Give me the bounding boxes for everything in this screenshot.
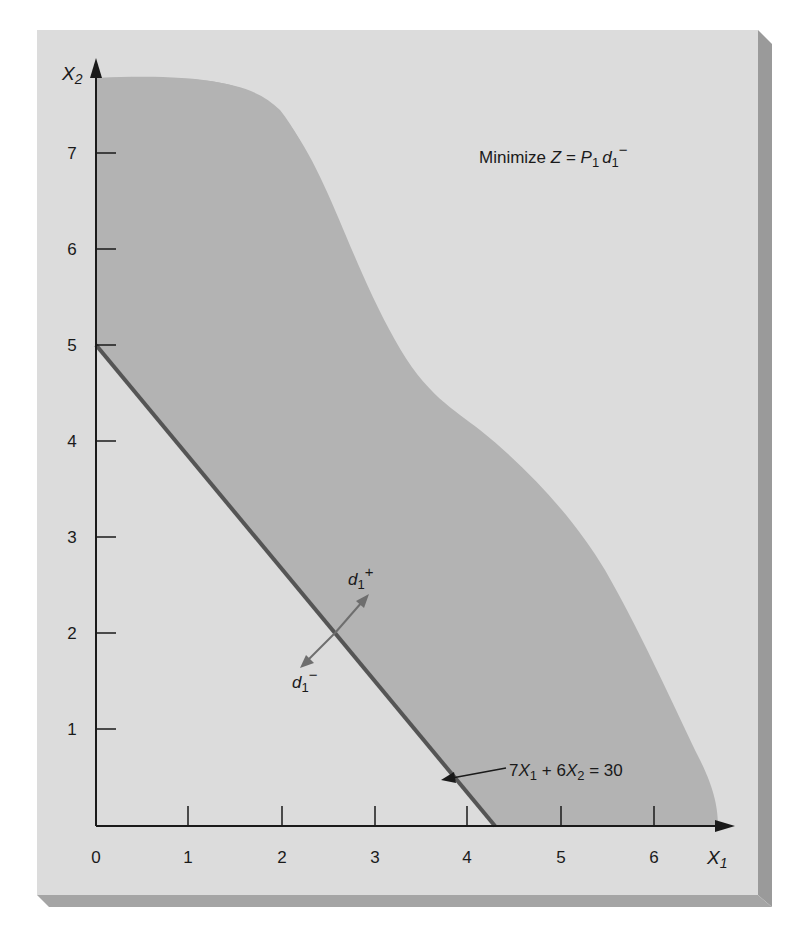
panel-shadow-right <box>758 30 772 907</box>
x-tick-label-6: 6 <box>649 848 658 867</box>
panel-shadow-bottom <box>37 895 772 907</box>
x-tick-label-3: 3 <box>370 848 379 867</box>
y-tick-label-2: 2 <box>67 624 76 643</box>
x-tick-label-2: 2 <box>277 848 286 867</box>
y-tick-label-3: 3 <box>67 528 76 547</box>
x-tick-label-0: 0 <box>91 848 100 867</box>
x-tick-label-5: 5 <box>556 848 565 867</box>
x-tick-label-1: 1 <box>183 848 192 867</box>
goal-programming-figure: 7 6 5 4 3 2 1 0 1 2 3 4 5 6 X2 X1 Minimi… <box>0 0 801 936</box>
y-tick-label-7: 7 <box>67 144 76 163</box>
y-tick-label-1: 1 <box>67 720 76 739</box>
y-tick-label-4: 4 <box>67 432 76 451</box>
y-tick-label-6: 6 <box>67 240 76 259</box>
y-tick-label-5: 5 <box>67 336 76 355</box>
x-tick-label-4: 4 <box>462 848 471 867</box>
constraint-label: 7X1 + 6X2 = 30 <box>509 761 623 783</box>
